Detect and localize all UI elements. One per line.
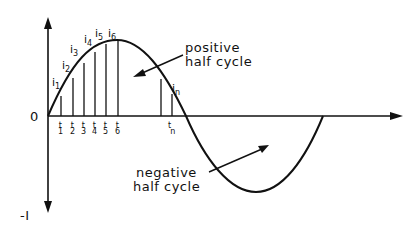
current-label-n: in xyxy=(172,82,180,97)
y-axis-down-arrow-icon xyxy=(44,201,52,213)
time-label-n: tn xyxy=(168,121,175,136)
time-label-4: t4 xyxy=(92,121,97,136)
negative-peak-label: -I xyxy=(20,208,30,223)
time-label-1: t1 xyxy=(58,121,63,136)
sine-wave-diagram: 0 -I i1 i2 i3 i4 i5 i6 in t1 t2 t3 t4 t5… xyxy=(0,0,419,234)
time-label-2: t2 xyxy=(70,121,75,136)
x-axis-arrow-icon xyxy=(390,112,403,120)
current-label-1: i1 xyxy=(52,76,60,91)
current-label-4: i4 xyxy=(84,33,92,48)
positive-pointer-arrow-icon xyxy=(133,69,146,77)
x-axis xyxy=(48,112,403,120)
time-label-5: t5 xyxy=(103,121,108,136)
current-label-5: i5 xyxy=(95,27,103,42)
time-labels: t1 t2 t3 t4 t5 t6 tn xyxy=(58,121,175,136)
negative-label-line2: half cycle xyxy=(133,179,200,194)
current-label-3: i3 xyxy=(70,43,78,58)
y-axis-up-arrow-icon xyxy=(44,17,52,29)
negative-pointer-arrow-icon xyxy=(258,145,269,153)
negative-label-line1: negative xyxy=(136,165,197,180)
positive-label-line2: half cycle xyxy=(185,54,252,69)
negative-half-cycle-annotation: negative half cycle xyxy=(133,145,269,194)
positive-label-line1: positive xyxy=(185,40,240,55)
current-label-2: i2 xyxy=(62,59,70,74)
origin-label: 0 xyxy=(30,109,39,124)
time-label-3: t3 xyxy=(81,121,86,136)
current-label-6: i6 xyxy=(108,27,116,42)
time-label-6: t6 xyxy=(115,121,120,136)
